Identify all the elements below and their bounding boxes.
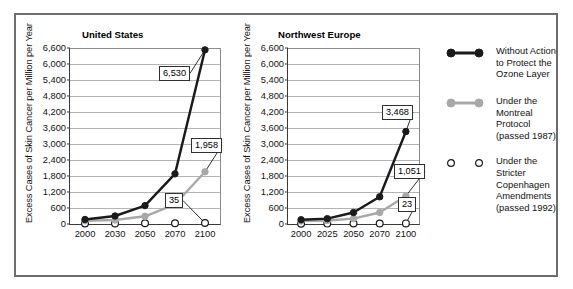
data-point-marker bbox=[172, 171, 178, 177]
data-point-marker bbox=[298, 217, 304, 223]
x-tick-label: 2100 bbox=[396, 229, 417, 239]
data-point-marker bbox=[142, 202, 148, 208]
y-tick-label: 3,000 bbox=[261, 139, 284, 149]
data-point-marker bbox=[82, 216, 88, 222]
y-tick-label: 5,400 bbox=[43, 75, 66, 85]
data-point-marker bbox=[403, 220, 410, 227]
data-callout-label: 3,468 bbox=[382, 105, 413, 120]
y-tick-label: 3,600 bbox=[261, 123, 284, 133]
data-callout-label: 6,530 bbox=[159, 66, 190, 81]
legend-label: Without Action to Protect the Ozone Laye… bbox=[496, 45, 558, 80]
data-point-marker bbox=[350, 215, 356, 221]
data-point-marker bbox=[202, 169, 208, 175]
data-point-marker bbox=[202, 220, 209, 227]
data-point-marker bbox=[324, 215, 330, 221]
y-tick-label: 0 bbox=[279, 219, 284, 229]
x-tick-label: 2050 bbox=[343, 229, 364, 239]
data-point-marker bbox=[377, 194, 383, 200]
figure-frame: Excess Cases of Skin Cancer per Million … bbox=[14, 13, 558, 277]
y-tick-label: 5,400 bbox=[261, 75, 284, 85]
data-point-marker bbox=[202, 47, 208, 53]
data-point-marker bbox=[377, 209, 383, 215]
y-tick-label: 1,200 bbox=[43, 187, 66, 197]
data-callout-label: 35 bbox=[165, 193, 183, 208]
data-callout-label: 1,051 bbox=[394, 164, 425, 179]
data-point-marker bbox=[142, 213, 148, 219]
plot-area-northwest-europe: 06001,2001,8002,4003,0003,6004,2004,8005… bbox=[287, 48, 420, 225]
x-tick-label: 2000 bbox=[291, 229, 312, 239]
y-tick-label: 2,400 bbox=[43, 155, 66, 165]
y-tick-label: 4,800 bbox=[43, 91, 66, 101]
y-tick-label: 1,800 bbox=[261, 171, 284, 181]
data-point-marker bbox=[350, 209, 356, 215]
y-tick-label: 6,600 bbox=[43, 43, 66, 53]
y-tick-label: 1,800 bbox=[43, 171, 66, 181]
legend-item: Under the Montreal Protocol (passed 1987… bbox=[446, 95, 558, 141]
legend-key-gray-filled-icon bbox=[446, 95, 490, 107]
y-tick-label: 3,600 bbox=[43, 123, 66, 133]
x-tick-label: 2070 bbox=[369, 229, 390, 239]
data-point-marker bbox=[142, 220, 149, 227]
x-tick-label: 2030 bbox=[105, 229, 126, 239]
callout-leader-line bbox=[183, 201, 205, 224]
panel-title-united-states: United States bbox=[82, 29, 143, 40]
y-tick-label: 6,000 bbox=[261, 59, 284, 69]
data-point-marker bbox=[376, 220, 383, 227]
chart-panel-united-states: Excess Cases of Skin Cancer per Million … bbox=[22, 15, 237, 275]
y-tick-label: 0 bbox=[61, 219, 66, 229]
legend-key-open-icon bbox=[446, 155, 490, 167]
panel-title-northwest-europe: Northwest Europe bbox=[278, 29, 361, 40]
x-tick-label: 2025 bbox=[317, 229, 338, 239]
legend-item: Without Action to Protect the Ozone Laye… bbox=[446, 45, 558, 81]
y-tick-label: 4,200 bbox=[43, 107, 66, 117]
legend-label: Under the Montreal Protocol (passed 1987… bbox=[496, 95, 558, 141]
y-tick-label: 1,200 bbox=[261, 187, 284, 197]
y-tick-label: 3,000 bbox=[43, 139, 66, 149]
legend-label: Under the Stricter Copenhagen Amendments… bbox=[496, 155, 558, 213]
y-tick-label: 2,400 bbox=[261, 155, 284, 165]
data-point-marker bbox=[112, 213, 118, 219]
x-tick-label: 2070 bbox=[165, 229, 186, 239]
y-tick-label: 6,000 bbox=[43, 59, 66, 69]
y-tick-label: 600 bbox=[50, 203, 66, 213]
chart-panel-northwest-europe: Excess Cases of Skin Cancer per Million … bbox=[240, 15, 435, 275]
y-tick-label: 6,600 bbox=[261, 43, 284, 53]
data-callout-label: 1,958 bbox=[191, 138, 222, 153]
y-tick-label: 4,800 bbox=[261, 91, 284, 101]
legend-item: Under the Stricter Copenhagen Amendments… bbox=[446, 155, 558, 213]
chart-legend: Without Action to Protect the Ozone Laye… bbox=[446, 45, 558, 227]
y-tick-label: 4,200 bbox=[261, 107, 284, 117]
data-point-marker bbox=[403, 128, 409, 134]
data-callout-label: 23 bbox=[398, 197, 416, 212]
x-tick-label: 2100 bbox=[195, 229, 216, 239]
x-tick-label: 2000 bbox=[75, 229, 96, 239]
data-point-marker bbox=[172, 220, 179, 227]
legend-key-black-filled-icon bbox=[446, 45, 490, 57]
series-layer bbox=[70, 48, 220, 224]
plot-area-united-states: 06001,2001,8002,4003,0003,6004,2004,8005… bbox=[69, 48, 221, 225]
y-tick-label: 600 bbox=[268, 203, 284, 213]
x-tick-label: 2050 bbox=[135, 229, 156, 239]
